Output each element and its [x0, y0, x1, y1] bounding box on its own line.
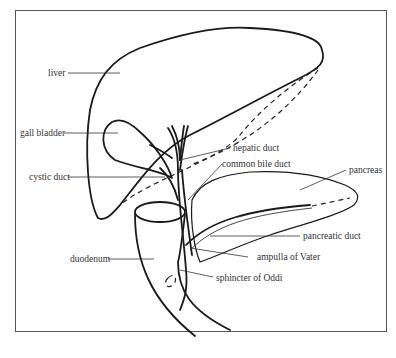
ampulla-leader — [190, 248, 248, 257]
common-bile-duct-leader — [188, 164, 222, 200]
duodenum-opening — [135, 202, 185, 222]
label-sphincter-of-oddi: sphincter of Oddi — [216, 273, 283, 283]
label-cystic-duct: cystic duct — [29, 172, 70, 182]
label-duodenum: duodenum — [70, 254, 111, 264]
pancreatic-duct-dashed — [312, 198, 350, 206]
label-pancreas: pancreas — [349, 165, 383, 175]
pancreas-outline — [192, 172, 358, 262]
liver-dashed-edge — [120, 68, 318, 205]
label-common-bile-duct: common bile duct — [222, 159, 291, 169]
label-ampulla-of-vater: ampulla of Vater — [257, 252, 321, 262]
liver-outline — [87, 28, 323, 219]
label-hepatic-duct: hepatic duct — [233, 143, 280, 153]
label-pancreatic-duct: pancreatic duct — [303, 231, 361, 241]
pancreas-leader — [300, 170, 346, 190]
sphincter-dashed — [166, 276, 176, 287]
cystic-duct — [160, 168, 178, 200]
biliary-anatomy-diagram: liver gall bladder cystic duct duodenum … — [0, 0, 396, 358]
label-liver: liver — [48, 68, 66, 78]
sphincter-leader — [180, 270, 213, 277]
label-gall-bladder: gall bladder — [20, 128, 66, 138]
